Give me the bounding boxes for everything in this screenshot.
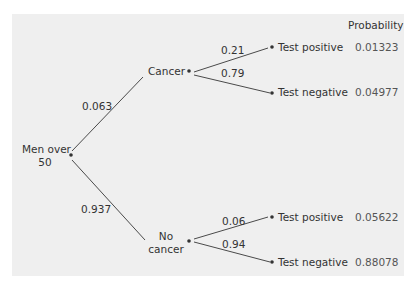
outcome-label-3: Test positive: [278, 211, 343, 224]
joint-prob-3: 0.05622: [355, 211, 398, 224]
outcome-dot-2: [270, 91, 274, 95]
edge-prob-cancer-negative: 0.79: [221, 67, 244, 80]
root-label-line1: Men over: [22, 143, 68, 156]
joint-prob-2: 0.04977: [355, 86, 398, 99]
cancer-edge-prob: 0.063: [82, 100, 112, 113]
probability-header: Probability: [348, 19, 404, 32]
no-cancer-line2: cancer: [148, 243, 184, 256]
edge-prob-nocancer-positive: 0.06: [222, 215, 245, 228]
root-label: Men over 50: [22, 143, 68, 169]
outcome-label-4: Test negative: [278, 256, 348, 269]
outcome-dot-3: [270, 215, 274, 219]
outcome-dot-4: [270, 260, 274, 264]
outcome-label-2: Test negative: [278, 86, 348, 99]
no-cancer-edge-prob: 0.937: [81, 203, 111, 216]
outcome-label-1: Test positive: [278, 41, 343, 54]
edge-prob-nocancer-negative: 0.94: [222, 238, 245, 251]
cancer-label: Cancer: [148, 65, 185, 78]
cancer-node-dot: [187, 69, 191, 73]
joint-prob-1: 0.01323: [355, 41, 398, 54]
outcome-dot-1: [270, 45, 274, 49]
edge-root-no-cancer: [72, 160, 145, 240]
edge-prob-cancer-positive: 0.21: [221, 44, 244, 57]
edge-root-cancer: [72, 77, 143, 151]
no-cancer-node-dot: [187, 239, 191, 243]
no-cancer-label: No cancer: [148, 230, 184, 256]
joint-prob-4: 0.88078: [355, 256, 398, 269]
root-label-line2: 50: [22, 156, 68, 169]
no-cancer-line1: No: [148, 230, 184, 243]
